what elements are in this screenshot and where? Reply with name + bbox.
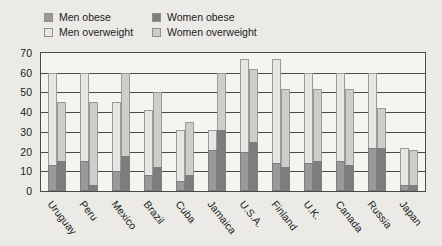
y-tick-label: 30 bbox=[20, 126, 32, 138]
bar-group bbox=[169, 53, 201, 191]
y-tick-label: 40 bbox=[20, 106, 32, 118]
chart-legend: Men obese Women obese Men overweight Wom… bbox=[44, 10, 257, 40]
bar-group bbox=[41, 53, 73, 191]
bar-groups bbox=[41, 53, 425, 191]
bar-segment-women-obese bbox=[57, 161, 66, 191]
legend-label-women-overweight: Women overweight bbox=[167, 27, 257, 38]
bar-men bbox=[336, 53, 345, 191]
bar-group bbox=[73, 53, 105, 191]
x-axis-label: Brazil bbox=[142, 198, 168, 226]
y-tick-label: 50 bbox=[20, 86, 32, 98]
bar-women bbox=[185, 53, 194, 191]
legend-swatch-women-overweight bbox=[152, 28, 161, 37]
bar-segment-women-obese bbox=[217, 130, 226, 191]
bar-men bbox=[80, 53, 89, 191]
bar-women bbox=[345, 53, 354, 191]
legend-label-men-overweight: Men overweight bbox=[59, 27, 133, 38]
bar-men bbox=[368, 53, 377, 191]
x-axis-tick: Canada bbox=[329, 192, 361, 246]
x-axis-tick: Jamaica bbox=[201, 192, 233, 246]
legend-item-women-obese: Women obese bbox=[152, 12, 257, 23]
x-axis-label: Mexico bbox=[110, 198, 140, 232]
bar-segment-women-obese bbox=[377, 148, 386, 191]
legend-swatch-women-obese bbox=[152, 13, 161, 22]
bar-women bbox=[153, 53, 162, 191]
legend-label-women-obese: Women obese bbox=[167, 12, 235, 23]
bar-segment-women-obese bbox=[121, 156, 130, 191]
x-axis-tick: U.S.A. bbox=[233, 192, 265, 246]
bar-group bbox=[297, 53, 329, 191]
bar-segment-men-obese bbox=[208, 150, 217, 191]
bar-segment-women-obese bbox=[89, 185, 98, 191]
bar-men bbox=[176, 53, 185, 191]
bar-segment-women-obese bbox=[409, 185, 418, 191]
x-axis-tick: Peru bbox=[73, 192, 105, 246]
legend-label-men-obese: Men obese bbox=[59, 12, 111, 23]
x-axis-label: Finland bbox=[270, 198, 301, 233]
bar-group bbox=[137, 53, 169, 191]
x-axis-label: Cuba bbox=[174, 198, 199, 225]
bar-women bbox=[281, 53, 290, 191]
x-axis-tick: Finland bbox=[265, 192, 297, 246]
x-axis-tick: Brazil bbox=[137, 192, 169, 246]
x-axis-label: Russia bbox=[366, 198, 395, 231]
legend-item-men-obese: Men obese bbox=[44, 12, 152, 23]
x-axis-labels: UruguayPeruMexicoBrazilCubaJamaicaU.S.A.… bbox=[41, 192, 425, 246]
bar-segment-men-obese bbox=[336, 161, 345, 191]
bar-men bbox=[112, 53, 121, 191]
legend-item-men-overweight: Men overweight bbox=[44, 27, 152, 38]
bar-segment-men-obese bbox=[176, 181, 185, 191]
y-axis-labels: 010203040506070 bbox=[0, 52, 36, 192]
bar-men bbox=[240, 53, 249, 191]
x-axis-tick: Japan bbox=[393, 192, 425, 246]
x-axis-label: U.K. bbox=[302, 198, 324, 221]
bar-group bbox=[265, 53, 297, 191]
x-axis-tick: Russia bbox=[361, 192, 393, 246]
bar-segment-men-obese bbox=[112, 171, 121, 191]
bar-men bbox=[48, 53, 57, 191]
bar-men bbox=[272, 53, 281, 191]
bar-segment-men-obese bbox=[272, 163, 281, 191]
x-axis-label: Peru bbox=[78, 198, 101, 223]
y-tick-label: 20 bbox=[20, 146, 32, 158]
legend-swatch-men-obese bbox=[44, 13, 53, 22]
bar-women bbox=[89, 53, 98, 191]
bar-segment-men-obese bbox=[368, 148, 377, 191]
bar-segment-men-obese bbox=[240, 152, 249, 191]
bar-women bbox=[121, 53, 130, 191]
bar-women bbox=[409, 53, 418, 191]
bar-segment-women-obese bbox=[153, 167, 162, 191]
bar-group bbox=[329, 53, 361, 191]
bar-segment-women-obese bbox=[281, 167, 290, 191]
bar-segment-men-obese bbox=[80, 161, 89, 191]
y-tick-label: 60 bbox=[20, 67, 32, 79]
bar-women bbox=[313, 53, 322, 191]
bar-segment-men-obese bbox=[400, 185, 409, 191]
x-axis-tick: Mexico bbox=[105, 192, 137, 246]
bar-group bbox=[233, 53, 265, 191]
bar-segment-men-obese bbox=[144, 175, 153, 191]
bar-group bbox=[393, 53, 425, 191]
bar-segment-men-obese bbox=[304, 163, 313, 191]
y-tick-label: 0 bbox=[26, 185, 32, 197]
bar-men bbox=[208, 53, 217, 191]
legend-item-women-overweight: Women overweight bbox=[152, 27, 257, 38]
y-tick-label: 10 bbox=[20, 165, 32, 177]
bar-women bbox=[217, 53, 226, 191]
bar-women bbox=[249, 53, 258, 191]
x-axis-tick: U.K. bbox=[297, 192, 329, 246]
bar-segment-women-obese bbox=[313, 161, 322, 191]
bar-group bbox=[361, 53, 393, 191]
legend-swatch-men-overweight bbox=[44, 28, 53, 37]
bar-segment-women-obese bbox=[185, 175, 194, 191]
chart-container: Men obese Women obese Men overweight Wom… bbox=[0, 0, 442, 246]
y-tick-label: 70 bbox=[20, 47, 32, 59]
bar-segment-women-obese bbox=[249, 142, 258, 191]
bar-segment-men-obese bbox=[48, 165, 57, 191]
x-axis-label: U.S.A. bbox=[238, 198, 266, 229]
bar-segment-women-obese bbox=[345, 165, 354, 191]
bar-group bbox=[201, 53, 233, 191]
x-axis-tick: Cuba bbox=[169, 192, 201, 246]
bar-men bbox=[304, 53, 313, 191]
bar-women bbox=[377, 53, 386, 191]
